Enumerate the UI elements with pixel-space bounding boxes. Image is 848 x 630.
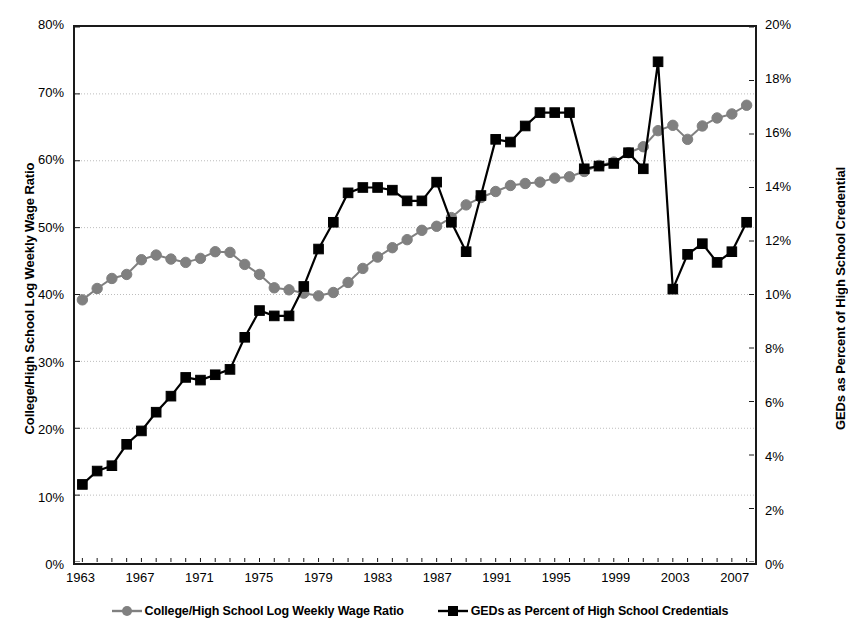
data-point [417,225,427,235]
data-point [727,109,737,119]
right-tick-16%: 16% [765,125,811,140]
data-point [225,365,235,375]
data-point [594,161,604,171]
data-point [668,120,678,130]
right-tick-14%: 14% [765,179,811,194]
data-point [520,178,530,188]
data-point [388,185,398,195]
left-tick-30%: 30% [18,355,64,370]
data-point [181,257,191,267]
legend-item-1[interactable]: College/High School Log Weekly Wage Rati… [112,604,404,618]
data-point [358,183,368,193]
data-point [121,269,131,279]
chart-legend: College/High School Log Weekly Wage Rati… [0,598,840,624]
data-point [313,291,323,301]
left-tick-80%: 80% [18,17,64,32]
x-tick-1971: 1971 [169,570,229,585]
x-tick-1995: 1995 [526,570,586,585]
right-tick-6%: 6% [765,395,811,410]
left-tick-40%: 40% [18,287,64,302]
data-point [624,148,634,158]
right-tick-4%: 4% [765,449,811,464]
circle-marker-icon [112,604,142,618]
series-ged-percent [78,57,752,489]
data-point [697,121,707,131]
data-point [535,108,545,118]
data-point [505,180,515,190]
data-point [742,217,752,227]
data-point [137,426,147,436]
data-point [343,277,353,287]
data-point [506,137,516,147]
square-marker-icon [438,604,468,618]
right-tick-10%: 10% [765,287,811,302]
data-point [638,164,648,174]
data-point [476,191,486,201]
data-point [166,391,176,401]
data-point [535,177,545,187]
right-tick-8%: 8% [765,341,811,356]
data-point [314,244,324,254]
data-point [343,188,353,198]
data-point [682,134,692,144]
x-tick-1991: 1991 [467,570,527,585]
x-tick-2003: 2003 [645,570,705,585]
data-point [490,186,500,196]
data-point [520,121,530,131]
left-tick-50%: 50% [18,220,64,235]
data-point [92,466,102,476]
plot-area [73,25,757,565]
data-point [136,255,146,265]
x-tick-2007: 2007 [705,570,765,585]
data-point [107,273,117,283]
right-tick-0%: 0% [765,557,811,572]
right-tick-20%: 20% [765,17,811,32]
data-point [565,108,575,118]
legend-label: College/High School Log Weekly Wage Rati… [145,604,404,618]
x-tick-1983: 1983 [348,570,408,585]
data-point [329,217,339,227]
data-point [328,287,338,297]
data-point [151,407,161,417]
x-tick-1975: 1975 [229,570,289,585]
left-tick-70%: 70% [18,85,64,100]
x-tick-1999: 1999 [586,570,646,585]
data-point [668,284,678,294]
data-point [387,242,397,252]
plot-svg [75,27,754,562]
x-tick-1979: 1979 [288,570,348,585]
data-point [77,295,87,305]
data-point [92,283,102,293]
data-point [683,250,693,260]
left-tick-10%: 10% [18,490,64,505]
data-point [402,234,412,244]
data-point [240,259,250,269]
data-point [741,100,751,110]
data-point [269,283,279,293]
data-point [299,282,309,292]
left-tick-60%: 60% [18,152,64,167]
data-point [210,247,220,257]
data-point [284,285,294,295]
data-point [727,247,737,257]
data-point [372,252,382,262]
data-point [461,247,471,257]
series-line [82,62,746,485]
data-point [431,221,441,231]
data-point [609,159,619,169]
data-point [373,183,383,193]
data-point [461,200,471,210]
left-tick-20%: 20% [18,422,64,437]
data-point [653,57,663,67]
data-point [698,239,708,249]
data-point [550,108,560,118]
x-tick-1987: 1987 [407,570,467,585]
data-point [225,247,235,257]
data-point [240,333,250,343]
series-college-wage-ratio [77,100,752,305]
legend-item-2[interactable]: GEDs as Percent of High School Credentia… [438,604,729,618]
data-point [196,375,206,385]
x-tick-1967: 1967 [110,570,170,585]
data-point [432,177,442,187]
